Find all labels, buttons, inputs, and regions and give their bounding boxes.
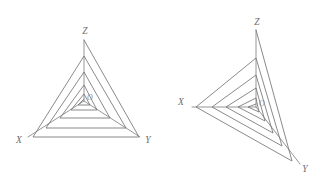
right-axis-label-z: Z xyxy=(254,17,260,27)
right-axis-label-x: X xyxy=(177,97,185,107)
right-spiral-polyline xyxy=(196,30,292,161)
left-axis-label-z: Z xyxy=(82,26,88,36)
right-figure: X Y Z O xyxy=(165,0,329,189)
left-origin-label: O xyxy=(87,93,93,102)
left-axis-y-line xyxy=(84,101,140,137)
left-axis-label-x: X xyxy=(15,135,23,145)
figure-canvas: X Y Z O X Y Z O xyxy=(0,0,329,189)
left-axis-label-y: Y xyxy=(145,135,152,145)
right-origin-label: O xyxy=(259,99,265,108)
right-axis-label-y: Y xyxy=(302,164,309,174)
left-figure: X Y Z O xyxy=(0,0,165,189)
left-spiral-polyline xyxy=(33,40,139,137)
